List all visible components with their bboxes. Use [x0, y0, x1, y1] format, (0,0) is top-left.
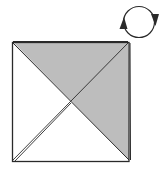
- turn-over-arrow-icon: [120, 7, 160, 38]
- right-edge-layer: [130, 43, 131, 160]
- diagonal-crease-2-layer: [15, 103, 71, 161]
- origami-diagram: [0, 0, 162, 174]
